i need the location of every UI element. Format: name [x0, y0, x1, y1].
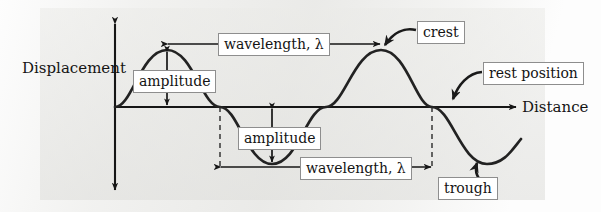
label-crest: crest: [417, 21, 465, 44]
label-trough: trough: [438, 177, 498, 200]
wave-figure-graphics: [0, 0, 601, 212]
label-wavelength-top: wavelength, λ: [218, 33, 330, 56]
label-wavelength-bottom: wavelength, λ: [300, 157, 412, 180]
rest-position-callout-arrow: [453, 72, 482, 99]
y-axis-label: Displacement: [22, 61, 126, 76]
label-rest-position: rest position: [483, 62, 584, 85]
x-axis-label: Distance: [522, 100, 588, 115]
wave-diagram: Displacement Distance wavelength, λ wave…: [0, 0, 601, 212]
crest-callout-arrow: [385, 29, 416, 45]
label-amplitude-crest: amplitude: [133, 70, 216, 93]
label-amplitude-trough: amplitude: [238, 127, 321, 150]
